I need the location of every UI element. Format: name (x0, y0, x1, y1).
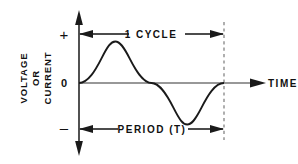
y-axis-arrow-down (75, 141, 83, 156)
y-tick-negative: – (60, 119, 69, 136)
y-axis-label: VOLTAGE OR CURRENT (18, 52, 53, 105)
sine-wave-figure: 1 CYCLE PERIOD (T) + 0 – TIME VOLTAGE OR… (0, 0, 298, 164)
y-tick-positive: + (60, 26, 69, 43)
cycle-dimension: 1 CYCLE (79, 29, 224, 40)
cycle-arrow-left (79, 30, 93, 38)
y-axis-label-line-current: CURRENT (42, 52, 53, 105)
cycle-arrow-right (210, 30, 224, 38)
y-tick-zero: 0 (61, 77, 67, 89)
x-axis-arrow-right (250, 79, 266, 88)
y-axis-label-line-or: OR (30, 70, 41, 86)
period-label: PERIOD (T) (118, 124, 187, 135)
cycle-label: 1 CYCLE (125, 29, 178, 40)
period-dimension: PERIOD (T) (79, 124, 224, 135)
x-axis (79, 79, 266, 88)
x-axis-label: TIME (268, 78, 298, 89)
period-arrow-left (79, 125, 93, 133)
period-arrow-right (210, 125, 224, 133)
y-axis-arrow-up (75, 10, 83, 25)
y-axis-label-line-voltage: VOLTAGE (18, 53, 29, 104)
